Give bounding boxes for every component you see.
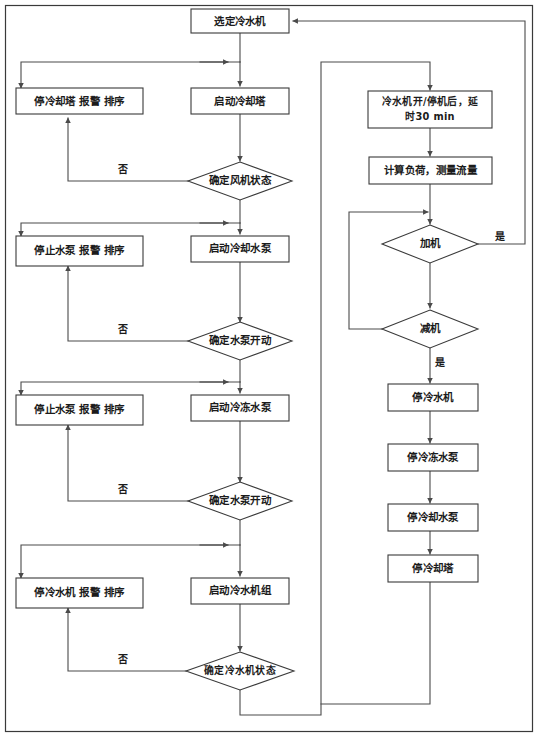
- node-calc-load-label: 计算负荷，测量流量: [384, 164, 477, 176]
- node-check-fan-label: 确定风机状态: [209, 174, 271, 186]
- node-check-chiller-label: 确定冷水机状态: [204, 664, 276, 676]
- edge-label-no-chiller: 否: [117, 654, 128, 665]
- node-stop-cooling-pump[interactable]: 停冷却水泵: [388, 504, 478, 531]
- node-start-label: 选定冷水机: [214, 15, 266, 27]
- edge-fan-to-stop-pump1: [21, 223, 240, 236]
- node-stop-pump-alarm-1[interactable]: 停止水泵 报警 排序: [16, 236, 143, 266]
- edge-check2-to-stop-chiller-alarm: [21, 545, 240, 578]
- edge-label-no-fan: 否: [117, 164, 128, 175]
- node-stop-pump-alarm-2-label: 停止水泵 报警 排序: [34, 403, 125, 415]
- node-add-machine[interactable]: 加机: [382, 225, 478, 263]
- edge-reduce-no-loop: [349, 212, 428, 329]
- node-stop-pump-alarm-2[interactable]: 停止水泵 报警 排序: [16, 395, 143, 425]
- node-start[interactable]: 选定冷水机: [191, 9, 289, 33]
- edge-check1-to-stop-pump2: [21, 382, 240, 395]
- node-delay[interactable]: 冷水机开/停机后，延 时30 min: [368, 91, 492, 128]
- flowchart-canvas: 选定冷水机 停冷却塔 报警 排序 启动冷却塔 确定风机状态 停止水泵 报警 排序: [0, 0, 538, 737]
- node-start-cooling-pump-label: 启动冷却水泵: [209, 242, 271, 254]
- node-check-pump-2-label: 确定水泵开动: [209, 494, 271, 506]
- edge-label-no-pump-2: 否: [117, 484, 128, 495]
- edge-check2-no: [68, 425, 192, 501]
- node-stop-chiller-label: 停冷水机: [412, 391, 454, 403]
- node-check-pump-1[interactable]: 确定水泵开动: [188, 322, 292, 360]
- nodes-group: 选定冷水机 停冷却塔 报警 排序 启动冷却塔 确定风机状态 停止水泵 报警 排序: [16, 9, 492, 690]
- node-stop-tower-alarm[interactable]: 停冷却塔 报警 排序: [16, 88, 143, 114]
- node-start-chilled-pump[interactable]: 启动冷冻水泵: [191, 395, 289, 421]
- flowchart-page: 选定冷水机 停冷却塔 报警 排序 启动冷却塔 确定风机状态 停止水泵 报警 排序: [0, 0, 538, 737]
- node-calc-load[interactable]: 计算负荷，测量流量: [369, 157, 492, 184]
- node-stop-cooling-pump-label: 停冷却水泵: [407, 511, 459, 523]
- node-reduce-machine-label: 减机: [420, 322, 441, 334]
- node-stop-chilled-pump-label: 停冷冻水泵: [407, 451, 459, 463]
- edge-checkchiller-no: [68, 608, 192, 671]
- node-stop-tower[interactable]: 停冷却塔: [388, 555, 478, 582]
- node-stop-pump-alarm-1-label: 停止水泵 报警 排序: [34, 244, 125, 256]
- edge-start-to-stop-tower: [21, 62, 240, 88]
- node-stop-tower-alarm-label: 停冷却塔 报警 排序: [34, 95, 125, 107]
- edge-label-no-pump-1: 否: [117, 324, 128, 335]
- edge-fan-no: [68, 118, 192, 181]
- node-check-chiller[interactable]: 确定冷水机状态: [186, 652, 294, 690]
- node-check-fan[interactable]: 确定风机状态: [188, 162, 292, 200]
- node-check-pump-2[interactable]: 确定水泵开动: [188, 482, 292, 520]
- node-start-chilled-pump-label: 启动冷冻水泵: [209, 401, 271, 413]
- node-check-pump-1-label: 确定水泵开动: [209, 334, 271, 346]
- edge-add-yes-to-start: [293, 21, 525, 244]
- edge-label-yes-add: 是: [494, 231, 505, 242]
- node-start-chiller-unit-label: 启动冷水机组: [209, 584, 271, 596]
- node-add-machine-label: 加机: [419, 237, 441, 249]
- node-stop-chilled-pump[interactable]: 停冷冻水泵: [388, 444, 478, 471]
- edge-check1-no: [68, 266, 192, 341]
- node-start-chiller-unit[interactable]: 启动冷水机组: [191, 578, 289, 604]
- node-stop-chiller-alarm[interactable]: 停冷水机 报警 排序: [16, 578, 143, 608]
- node-stop-chiller[interactable]: 停冷水机: [388, 384, 478, 411]
- edge-stoptower-bottom-loop: [321, 582, 430, 704]
- node-stop-tower-label: 停冷却塔: [412, 562, 454, 574]
- node-start-tower[interactable]: 启动冷却塔: [191, 88, 289, 114]
- node-delay-label-line2: 时30 min: [405, 110, 455, 122]
- edge-label-yes-reduce: 是: [434, 357, 445, 368]
- node-stop-chiller-alarm-label: 停冷水机 报警 排序: [34, 586, 125, 598]
- node-delay-label-line1: 冷水机开/停机后，延: [382, 95, 479, 107]
- node-reduce-machine[interactable]: 减机: [382, 310, 478, 348]
- node-start-cooling-pump[interactable]: 启动冷却水泵: [191, 236, 289, 262]
- node-start-tower-label: 启动冷却塔: [214, 95, 266, 107]
